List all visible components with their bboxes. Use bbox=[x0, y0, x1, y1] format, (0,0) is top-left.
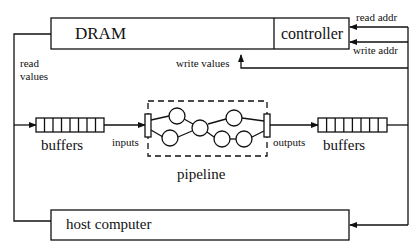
pipeline-node bbox=[236, 131, 252, 147]
controller-label: controller bbox=[281, 26, 343, 42]
right-buffers-label: buffers bbox=[323, 138, 365, 153]
write-values-arrow bbox=[241, 55, 408, 68]
diagram-canvas bbox=[0, 0, 420, 249]
write-addr-label: write addr bbox=[353, 45, 398, 56]
read-values-label-2: values bbox=[20, 71, 48, 82]
input-port bbox=[145, 114, 151, 137]
pipeline-node bbox=[226, 110, 242, 126]
inputs-label: inputs bbox=[112, 137, 139, 148]
left-buffers-label: buffers bbox=[41, 138, 83, 153]
dram-label: DRAM bbox=[75, 25, 126, 42]
pipeline-node bbox=[162, 130, 178, 146]
pipeline-node bbox=[192, 120, 208, 136]
pipeline-node bbox=[214, 131, 230, 147]
pipeline-label: pipeline bbox=[177, 167, 225, 182]
pipeline-node bbox=[169, 108, 185, 124]
output-port bbox=[264, 114, 270, 137]
right-buffer bbox=[318, 118, 387, 132]
host-label: host computer bbox=[66, 217, 151, 232]
read-addr-label: read addr bbox=[356, 12, 397, 23]
outputs-label: outputs bbox=[273, 137, 305, 148]
write-values-label: write values bbox=[176, 58, 229, 69]
read-values-label-1: read bbox=[20, 58, 39, 69]
left-buffer bbox=[36, 118, 104, 132]
